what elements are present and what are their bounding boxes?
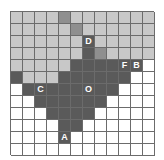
grid-cell	[107, 60, 119, 72]
grid-cell	[59, 144, 71, 156]
grid-cell	[143, 12, 155, 24]
grid-cell	[71, 96, 83, 108]
grid-cell	[95, 132, 107, 144]
cell-label-c: C	[37, 85, 44, 94]
grid-cell	[107, 132, 119, 144]
grid-cell	[11, 96, 23, 108]
grid-cell	[47, 36, 59, 48]
grid-cell	[95, 60, 107, 72]
grid-cell	[107, 144, 119, 156]
grid-cell	[47, 12, 59, 24]
grid-cell	[107, 72, 119, 84]
grid-cell	[35, 144, 47, 156]
grid-cell	[35, 12, 47, 24]
grid-cell	[95, 84, 107, 96]
grid-cell	[83, 108, 95, 120]
grid-cell	[131, 48, 143, 60]
grid-cell	[107, 120, 119, 132]
grid-cell	[71, 48, 83, 60]
grid-cell: A	[59, 132, 71, 144]
grid-cell	[23, 144, 35, 156]
grid-cell	[11, 144, 23, 156]
grid-cell	[23, 120, 35, 132]
grid-cell	[71, 12, 83, 24]
grid-cell	[71, 72, 83, 84]
grid-cell	[47, 48, 59, 60]
grid-cell	[59, 36, 71, 48]
grid-cell	[143, 72, 155, 84]
grid-cell	[47, 24, 59, 36]
grid-cell	[95, 108, 107, 120]
grid-cell	[11, 60, 23, 72]
grid-cell	[131, 120, 143, 132]
grid-cell	[83, 12, 95, 24]
grid-cell: D	[83, 36, 95, 48]
cell-label-d: D	[85, 37, 92, 46]
grid-cell	[35, 24, 47, 36]
grid-cell	[35, 72, 47, 84]
grid-cell	[95, 144, 107, 156]
grid-cell	[71, 120, 83, 132]
grid-cell	[131, 132, 143, 144]
grid-cell	[47, 120, 59, 132]
grid-cell	[59, 24, 71, 36]
grid-cell	[119, 48, 131, 60]
grid-cell	[83, 48, 95, 60]
grid-cell	[47, 108, 59, 120]
grid-cell	[119, 84, 131, 96]
grid-cell	[35, 120, 47, 132]
grid-cell	[143, 60, 155, 72]
grid-cell	[95, 96, 107, 108]
grid-cell	[23, 48, 35, 60]
grid-cell	[35, 108, 47, 120]
grid-cell	[83, 72, 95, 84]
grid-cell: F	[119, 60, 131, 72]
grid-cell	[23, 108, 35, 120]
grid-cell	[23, 72, 35, 84]
grid-cell	[95, 12, 107, 24]
grid-cell	[119, 144, 131, 156]
grid-cell	[107, 24, 119, 36]
grid-cell	[59, 72, 71, 84]
grid-cell	[35, 36, 47, 48]
grid-cell	[131, 24, 143, 36]
grid-cell	[47, 84, 59, 96]
grid-cell	[107, 48, 119, 60]
grid-cell	[11, 72, 23, 84]
grid-cell	[143, 108, 155, 120]
grid-cell	[131, 72, 143, 84]
grid-cell	[83, 144, 95, 156]
grid-cell	[83, 132, 95, 144]
grid-cell	[131, 96, 143, 108]
grid-cell	[47, 144, 59, 156]
grid-cell	[95, 24, 107, 36]
grid-cell	[11, 132, 23, 144]
grid-cell	[59, 48, 71, 60]
grid-cell	[35, 132, 47, 144]
grid-cell	[143, 84, 155, 96]
grid-cell	[23, 60, 35, 72]
cell-label-b: B	[133, 61, 140, 70]
grid-cell	[11, 24, 23, 36]
grid-cell	[23, 36, 35, 48]
grid-cell	[143, 48, 155, 60]
grid-cell	[47, 96, 59, 108]
grid-cell	[143, 132, 155, 144]
grid-cell	[71, 108, 83, 120]
grid-cell	[119, 72, 131, 84]
grid-cell	[95, 48, 107, 60]
grid-cell	[59, 12, 71, 24]
grid-cell	[83, 60, 95, 72]
grid-cell	[143, 144, 155, 156]
grid-cell: C	[35, 84, 47, 96]
grid-cell	[11, 84, 23, 96]
grid-cell	[83, 120, 95, 132]
grid-cell	[59, 60, 71, 72]
grid-cell	[47, 60, 59, 72]
grid-cell	[119, 96, 131, 108]
grid-cell: B	[131, 60, 143, 72]
grid-cell	[107, 36, 119, 48]
grid-cell	[23, 84, 35, 96]
grid-cell	[47, 72, 59, 84]
grid-cell	[131, 108, 143, 120]
